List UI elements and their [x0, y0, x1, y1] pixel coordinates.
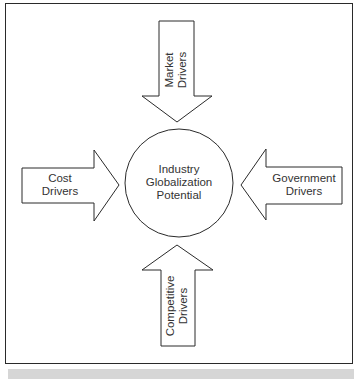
government-drivers-label: Government Drivers: [268, 172, 340, 198]
cost-label-line1: Cost: [30, 172, 90, 185]
center-label-line2: Globalization: [129, 176, 229, 189]
government-label-line1: Government: [268, 172, 340, 185]
market-label-line1: Market: [163, 38, 176, 102]
market-label-line2: Drivers: [176, 38, 189, 102]
center-label: Industry Globalization Potential: [129, 163, 229, 202]
bottom-bar: [8, 369, 354, 379]
center-label-line3: Potential: [129, 189, 229, 202]
competitive-label-line2: Drivers: [177, 266, 190, 346]
cost-drivers-label: Cost Drivers: [30, 172, 90, 198]
government-label-line2: Drivers: [268, 185, 340, 198]
competitive-label-line1: Competitive: [164, 266, 177, 346]
cost-label-line2: Drivers: [30, 185, 90, 198]
center-label-line1: Industry: [129, 163, 229, 176]
market-drivers-label: Market Drivers: [163, 38, 191, 102]
competitive-drivers-label: Competitive Drivers: [164, 266, 192, 346]
